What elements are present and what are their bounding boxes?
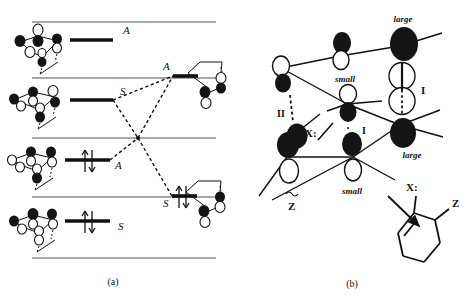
orbital-lobe-empty (216, 73, 226, 84)
correlation-line-S-down (113, 100, 138, 138)
orbital-lobe-small-empty (340, 85, 357, 104)
symmetry-label-A-product: A (162, 60, 170, 72)
orbital-lobe-empty (200, 217, 210, 228)
orbital-lobe-filled (38, 57, 47, 67)
orbital-lobe-filled (215, 192, 225, 203)
orbital-lobe-empty (280, 159, 299, 183)
ring-bond-4 (403, 256, 424, 262)
orbital-lobe-empty (16, 162, 25, 172)
orbital-lobe-empty (35, 235, 44, 245)
ring-bond-5 (398, 233, 403, 256)
ring-bond-1 (414, 213, 435, 220)
label-small-upper: small (334, 74, 356, 84)
substituent-bond-X (414, 196, 416, 213)
interaction-line-II (290, 95, 293, 122)
correlation-line-A-to-S (110, 138, 138, 160)
label-large-top: large (394, 14, 413, 24)
orbital-lobe-empty (345, 159, 362, 181)
orbital-lobe-empty (53, 43, 62, 53)
figure-root: A S A S A S (a) (0, 0, 471, 298)
orbital-lobe-filled (35, 112, 45, 123)
label-substituent-X: X: (305, 127, 317, 139)
orbital-lobe-filled (342, 132, 362, 156)
reactant-orbital-sketch-4 (9, 208, 58, 252)
lone-pair-stub-X (318, 123, 333, 140)
orbital-lobe-empty (201, 98, 211, 109)
orbital-lobe-filled (275, 74, 291, 93)
orbital-lobe-filled (277, 132, 299, 158)
correlation-crossing-point (136, 136, 140, 140)
correlation-line-A-up (138, 76, 173, 138)
energy-level-lines (32, 22, 216, 258)
reactant-orbital-sketch-2 (9, 86, 60, 130)
correlation-line-down-right (138, 138, 172, 196)
label-product-Z: Z (452, 197, 459, 209)
symmetry-label-S-product: S (163, 197, 169, 209)
orbital-lobe-filled (47, 209, 57, 220)
orbital-lobe-empty (48, 86, 58, 97)
label-substituent-Z: Z (288, 200, 295, 212)
ring-bond-2 (435, 220, 440, 243)
orbital-lobe-filled (9, 216, 19, 227)
panel-a-caption: (a) (107, 276, 118, 288)
product-orbital-sketch-upper (188, 62, 226, 109)
label-interaction-II: II (277, 108, 285, 119)
label-large-lower: large (403, 150, 422, 160)
orbital-correlation-figure: A S A S A S (a) (0, 0, 471, 298)
orbital-lobe-filled (33, 35, 44, 47)
orbital-lobe-empty (273, 56, 290, 76)
ring-bond-3 (424, 243, 440, 262)
label-small-lower: small (341, 186, 363, 196)
symmetry-label-A-top: A (122, 24, 130, 36)
orbital-lobe-empty (49, 219, 58, 229)
label-interaction-I-center: I (362, 125, 366, 136)
substituent-bond-Z (435, 209, 449, 220)
cyclohexene-product (398, 196, 449, 262)
ring-bond-6-double (398, 213, 414, 233)
label-product-X: X: (406, 181, 418, 193)
symmetry-label-S-lowest: S (118, 220, 124, 232)
orbital-lobe-filled (216, 83, 226, 94)
symmetry-label-S-upper: S (120, 85, 126, 97)
reactant-orbital-sketch-3 (8, 147, 57, 191)
label-interaction-I-right: I (421, 84, 425, 96)
orbital-lobe-large-filled (390, 27, 418, 61)
orbital-lobe-small-filled (340, 102, 357, 122)
squiggle-mark-Z (286, 192, 298, 196)
orbital-lobe-empty (25, 47, 35, 58)
orbital-lobe-large-filled-lower (390, 118, 416, 148)
orbital-lobe-filled (46, 147, 56, 158)
orbital-lobe-empty (38, 49, 46, 58)
dot-pair-I-center (347, 127, 349, 129)
orbital-lobe-filled (32, 173, 42, 184)
panel-a: A S A S A S (a) (8, 22, 227, 288)
orbital-lobe-empty (333, 51, 349, 70)
orbital-lobe-filled (50, 97, 60, 108)
panel-b: large small small large I I II X: Z X: Z… (259, 14, 459, 290)
orbital-lobe-empty (33, 24, 43, 36)
panel-b-caption: (b) (346, 278, 358, 290)
orbital-lobe-empty (215, 202, 225, 213)
orbital-lobe-filled (28, 208, 39, 220)
orbital-lobe-filled (200, 86, 211, 98)
orbital-lobe-filled (15, 35, 26, 47)
orbital-lobe-empty (17, 101, 26, 111)
orbital-energy-bars (65, 40, 198, 221)
orbital-lobe-filled (199, 205, 210, 217)
orbital-lobe-empty (48, 157, 57, 167)
symmetry-label-A-lower: A (114, 159, 122, 171)
product-orbital-sketch-lower (186, 181, 225, 228)
orbital-lobe-empty (18, 224, 27, 234)
orbital-lobe-empty (8, 155, 17, 165)
reactant-orbital-sketch-1 (15, 24, 63, 74)
